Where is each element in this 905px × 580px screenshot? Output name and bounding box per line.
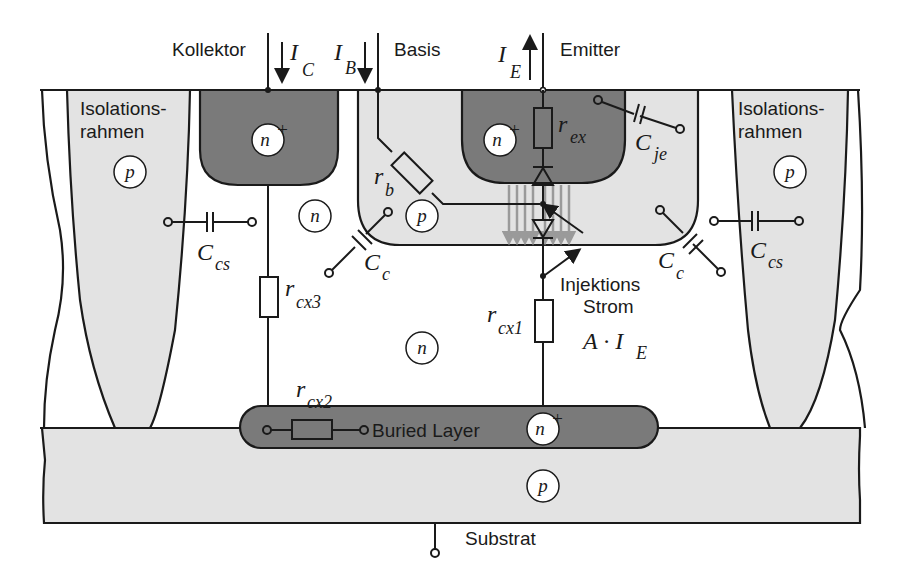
svg-text:A · I: A · I [581,328,624,354]
svg-text:ex: ex [570,127,586,147]
svg-text:cx3: cx3 [296,292,321,312]
injection-label-2: Strom [583,296,634,317]
doping-sup: + [276,119,289,140]
svg-text:r: r [296,376,306,402]
doping-sup: + [508,119,521,140]
doping-label: n [260,129,270,150]
svg-text:r: r [285,275,295,301]
emitter-label: Emitter [560,39,621,60]
isolation-left-label-1: Isolations- [80,98,167,119]
doping-iso-left: p [114,156,146,188]
svg-text:r: r [374,163,384,189]
svg-text:cx1: cx1 [498,318,523,338]
transistor-cross-section-diagram: p p n + n + p n n n + p Kollektor Basis … [0,0,905,580]
svg-text:c: c [676,263,684,283]
substrate-label: Substrat [465,528,536,549]
svg-text:r: r [487,301,497,327]
svg-text:r: r [558,111,568,137]
doping-label: n [535,418,545,439]
svg-text:I: I [289,39,299,65]
doping-epi-upper: n [299,200,331,232]
svg-text:B: B [345,58,356,78]
svg-text:b: b [385,180,394,200]
svg-text:E: E [635,343,647,363]
svg-text:C: C [750,237,767,263]
injection-label-1: Injektions [560,274,640,295]
svg-text:C: C [635,129,652,155]
doping-epi-lower: n [406,332,438,364]
svg-text:cs: cs [768,252,783,272]
svg-text:I: I [497,41,507,67]
doping-label: p [415,205,427,226]
ib-label: I B [333,39,356,78]
doping-iso-right: p [774,156,806,188]
doping-substrate: p [527,470,559,502]
doping-base: p [406,200,438,232]
isolation-left-label-2: rahmen [80,121,144,142]
ie-label: I E [497,41,521,82]
svg-text:c: c [382,264,390,284]
svg-text:cx2: cx2 [307,392,332,412]
isolation-right-label-2: rahmen [738,121,802,142]
doping-label: p [536,475,548,496]
svg-text:I: I [333,39,343,65]
svg-text:C: C [658,247,675,273]
doping-label: p [123,161,135,182]
buried-layer-label: Buried Layer [372,420,480,441]
doping-label: n [310,205,320,226]
svg-text:je: je [652,144,667,164]
internal-base-node [540,201,546,207]
isolation-right-label-1: Isolations- [738,98,825,119]
doping-label: p [783,161,795,182]
svg-text:C: C [302,60,315,80]
svg-text:E: E [509,62,521,82]
collector-node [265,87,271,93]
collector-label: Kollektor [172,39,247,60]
base-label: Basis [394,39,440,60]
svg-text:C: C [197,239,214,265]
ic-label: I C [289,39,315,80]
svg-text:C: C [364,249,381,275]
doping-label: n [492,129,502,150]
svg-text:cs: cs [215,254,230,274]
doping-label: n [417,337,427,358]
doping-sup: + [551,408,564,429]
substrate-terminal-node [431,549,439,557]
